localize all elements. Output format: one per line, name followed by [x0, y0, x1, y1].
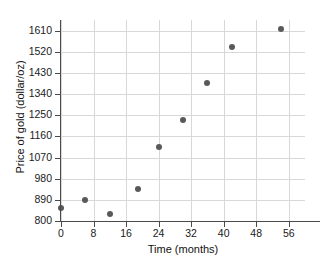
y-axis-tick — [55, 179, 61, 180]
y-axis-tick-label: 1160 — [0, 130, 52, 141]
gridline-vertical — [159, 20, 160, 221]
gridline-horizontal — [61, 200, 305, 201]
x-axis-tick-label: 16 — [111, 228, 141, 239]
gridline-vertical — [224, 20, 225, 221]
y-axis-tick-label: 800 — [0, 215, 52, 226]
y-axis-tick — [55, 115, 61, 116]
data-point — [107, 211, 113, 217]
y-axis-tick — [55, 200, 61, 201]
y-axis-tick — [55, 52, 61, 53]
x-axis-tick-label: 32 — [176, 228, 206, 239]
gridline-horizontal — [61, 158, 305, 159]
data-point — [82, 197, 88, 203]
x-axis-tick-label: 40 — [209, 228, 239, 239]
gridline-horizontal — [61, 73, 305, 74]
data-point — [156, 144, 162, 150]
y-axis-tick — [55, 31, 61, 32]
scatter-chart-figure: 8008909801070116012501340143015201610 08… — [0, 0, 333, 265]
y-axis-line — [60, 20, 61, 222]
data-point — [229, 44, 235, 50]
y-axis-tick-label: 1520 — [0, 46, 52, 57]
x-axis-tick-label: 0 — [46, 228, 76, 239]
gridline-horizontal — [61, 136, 305, 137]
x-axis-label: Time (months) — [61, 243, 305, 255]
x-axis-line — [60, 221, 320, 222]
gridline-vertical — [61, 20, 62, 221]
x-axis-tick-label: 56 — [274, 228, 304, 239]
gridline-vertical — [94, 20, 95, 221]
data-point — [58, 205, 64, 211]
y-axis-label-wrapper: Price of gold (dollar/oz) — [10, 17, 24, 217]
gridline-horizontal — [61, 31, 305, 32]
y-axis-label: Price of gold (dollar/oz) — [14, 60, 26, 173]
y-axis-tick-label: 1430 — [0, 67, 52, 78]
plot-area — [61, 20, 305, 221]
x-axis-tick-label: 24 — [144, 228, 174, 239]
y-axis-tick — [55, 136, 61, 137]
y-axis-tick-label: 980 — [0, 173, 52, 184]
data-point — [135, 186, 141, 192]
data-point — [180, 117, 186, 123]
gridline-horizontal — [61, 94, 305, 95]
y-axis-tick — [55, 73, 61, 74]
y-axis-tick-label: 1610 — [0, 25, 52, 36]
y-axis-tick — [55, 158, 61, 159]
x-axis-tick-label: 8 — [79, 228, 109, 239]
gridline-vertical — [126, 20, 127, 221]
gridline-horizontal — [61, 115, 305, 116]
gridline-horizontal — [61, 52, 305, 53]
y-axis-tick-label: 1340 — [0, 88, 52, 99]
y-axis-tick — [55, 94, 61, 95]
gridline-vertical — [289, 20, 290, 221]
data-point — [204, 80, 210, 86]
x-axis-tick-label: 48 — [241, 228, 271, 239]
gridline-vertical — [256, 20, 257, 221]
y-axis-tick-label: 890 — [0, 194, 52, 205]
y-axis-tick-label: 1250 — [0, 109, 52, 120]
gridline-horizontal — [61, 179, 305, 180]
gridline-vertical — [191, 20, 192, 221]
y-axis-tick-label: 1070 — [0, 152, 52, 163]
